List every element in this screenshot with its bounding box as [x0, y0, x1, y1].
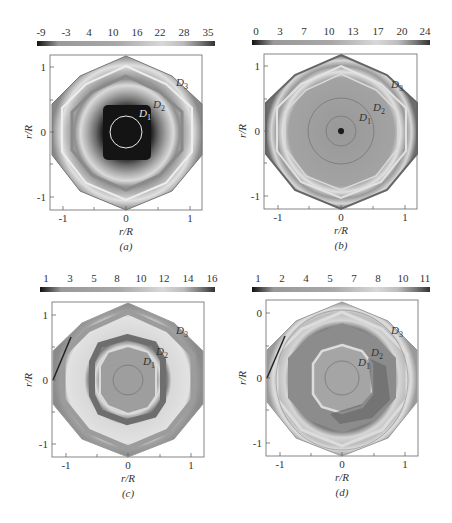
y-tick: 0	[257, 307, 263, 319]
x-tick: -1	[58, 212, 67, 224]
cb-tick: 0	[253, 25, 259, 37]
y-axis-label: r/R	[22, 125, 34, 139]
cb-tick: 12	[159, 272, 170, 284]
cb-tick: 28	[179, 26, 191, 38]
y-tick: 0	[257, 372, 263, 384]
cb-tick: 1	[255, 272, 261, 284]
cb-tick: 3	[67, 272, 73, 284]
y-tick: 0	[41, 126, 47, 138]
figure: -9 -3 4 10 16 22 28 35 1 0 -1 -1 0 1 r/R…	[0, 0, 452, 523]
colorbar-b-ticks: 0 3 7 10 13 17 20 24	[253, 25, 431, 37]
colorbar-a-ticks: -9 -3 4 10 16 22 28 35	[36, 26, 214, 38]
y-tick: 1	[255, 60, 261, 72]
cb-tick: 11	[420, 272, 431, 284]
cb-tick: -9	[36, 26, 46, 38]
cb-tick: 14	[183, 272, 195, 284]
cb-tick: 5	[91, 272, 97, 284]
panel-caption: (b)	[335, 239, 348, 252]
cb-tick: 4	[303, 272, 309, 284]
x-tick: 0	[125, 459, 131, 471]
x-tick: -1	[273, 211, 282, 223]
colorbar-c-ticks: 1 3 5 8 10 12 14 16	[43, 272, 218, 284]
x-tick: -1	[275, 458, 284, 470]
x-tick: 0	[338, 211, 344, 223]
cb-tick: 4	[86, 26, 92, 38]
cb-tick: 3	[277, 25, 283, 37]
cb-tick: 13	[348, 25, 360, 37]
panel-a: -9 -3 4 10 16 22 28 35 1 0 -1 -1 0 1 r/R…	[22, 26, 215, 253]
cb-tick: 10	[136, 272, 148, 284]
cb-tick: 17	[373, 25, 385, 37]
y-axis-label: r/R	[236, 124, 248, 138]
y-axis-label: r/R	[236, 371, 248, 385]
x-axis-label: r/R	[121, 472, 135, 484]
cb-tick: 20	[397, 25, 409, 37]
cb-tick: 16	[207, 272, 219, 284]
panel-caption: (c)	[122, 487, 135, 500]
cb-tick: 16	[132, 26, 144, 38]
colorbar-d	[252, 287, 430, 292]
panel-caption: (a)	[120, 240, 133, 253]
cb-tick: 22	[155, 26, 166, 38]
colorbar-d-ticks: 1 2 4 5 7 8 10 11	[255, 272, 430, 284]
panel-caption: (d)	[336, 486, 349, 499]
cb-tick: 2	[279, 272, 285, 284]
cb-tick: 24	[420, 25, 432, 37]
colorbar-c	[40, 287, 215, 292]
cb-tick: 10	[108, 26, 120, 38]
x-tick: 1	[402, 211, 408, 223]
y-tick: -1	[39, 438, 48, 450]
x-tick: -1	[61, 459, 70, 471]
x-axis-label: r/R	[334, 224, 348, 236]
x-axis-label: r/R	[335, 471, 349, 483]
x-tick: 1	[188, 459, 194, 471]
panel-b: 0 3 7 10 13 17 20 24 1 0 -1 -1 0 1 r/R r…	[236, 25, 431, 252]
y-tick: -1	[37, 191, 46, 203]
cb-tick: -3	[61, 26, 71, 38]
x-tick: 1	[402, 458, 408, 470]
cb-tick: 8	[114, 272, 120, 284]
y-axis-label: r/R	[22, 373, 34, 387]
panel-c: 1 3 5 8 10 12 14 16 1 0 -1 -1 0 1 r/R r/…	[22, 272, 218, 500]
y-tick: 1	[41, 61, 47, 73]
y-tick: 0	[43, 374, 49, 386]
y-tick: 0	[255, 125, 261, 137]
cb-tick: 5	[327, 272, 333, 284]
cb-tick: 10	[324, 25, 336, 37]
cb-tick: 10	[398, 272, 410, 284]
cb-tick: 7	[351, 272, 357, 284]
y-tick: 1	[43, 309, 49, 321]
x-tick: 0	[123, 212, 129, 224]
x-tick: 0	[339, 458, 345, 470]
center-spot-b	[338, 128, 344, 134]
cb-tick: 7	[301, 25, 307, 37]
y-tick: -1	[253, 437, 262, 449]
x-axis-label: r/R	[119, 225, 133, 237]
cb-tick: 35	[203, 26, 215, 38]
colorbar-b	[252, 40, 430, 45]
colorbar-a	[37, 41, 215, 46]
cb-tick: 1	[43, 272, 49, 284]
cb-tick: 8	[375, 272, 381, 284]
y-tick: -1	[251, 190, 260, 202]
x-tick: 1	[187, 212, 193, 224]
panel-d: 1 2 4 5 7 8 10 11 0 0 -1 -1 0 1 r/R r/R …	[236, 272, 430, 499]
